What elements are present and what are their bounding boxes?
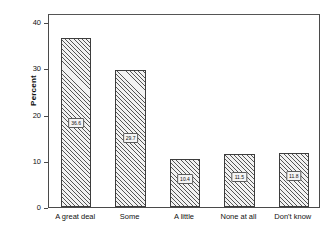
x-tick-label: A great deal: [55, 212, 95, 221]
bar: 11.8: [279, 153, 309, 208]
bar: 10.4: [170, 159, 200, 207]
bar-value-label: 36.6: [68, 118, 84, 128]
y-tick-label: 30: [0, 64, 48, 74]
x-tick-label: Don't know: [274, 212, 311, 221]
bar-chart: Percent 010203040 36.629.710.411.511.8 A…: [0, 0, 334, 240]
plot-area: 36.629.710.411.511.8: [48, 14, 320, 208]
bar-value-label: 11.8: [286, 171, 301, 181]
x-tick-label: Some: [120, 212, 140, 221]
bar: 11.5: [224, 154, 254, 207]
y-tick-label: 40: [0, 18, 48, 28]
bar: 36.6: [61, 38, 91, 207]
bar-value-label: 29.7: [123, 133, 139, 143]
bar-value-label: 11.5: [232, 172, 247, 182]
y-tick-label: 10: [0, 157, 48, 167]
y-tick-label: 20: [0, 111, 48, 121]
y-tick-label: 0: [0, 203, 48, 213]
y-tick-mark: [44, 208, 48, 209]
bar-value-label: 10.4: [177, 174, 193, 184]
x-tick-label: A little: [174, 212, 194, 221]
x-tick-label: None at all: [220, 212, 256, 221]
bar: 29.7: [115, 70, 145, 207]
